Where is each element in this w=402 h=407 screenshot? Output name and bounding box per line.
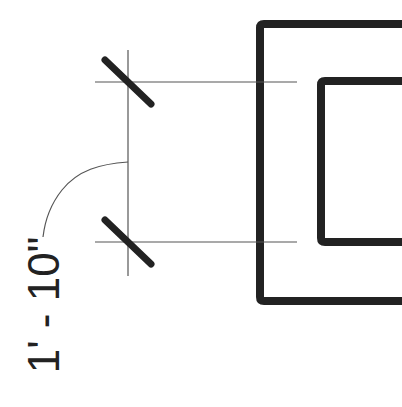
outer-bracket <box>260 24 402 301</box>
dimension-label: 1' - 10" <box>19 237 68 374</box>
drawing-canvas: 1' - 10" <box>0 0 402 407</box>
inner-bracket <box>321 81 402 242</box>
